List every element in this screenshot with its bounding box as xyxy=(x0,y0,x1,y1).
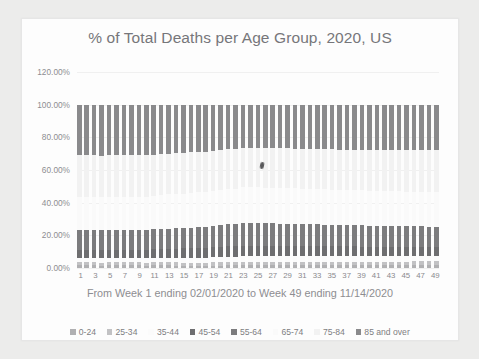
bar-column[interactable] xyxy=(300,105,305,268)
bar-column[interactable] xyxy=(151,105,156,268)
bar-column[interactable] xyxy=(99,105,104,268)
bar-column[interactable] xyxy=(352,105,357,268)
bar-column[interactable] xyxy=(84,105,89,268)
bar-segment xyxy=(352,105,357,150)
legend-label: 0-24 xyxy=(79,327,96,337)
bar-segment xyxy=(144,230,149,250)
bar-column[interactable] xyxy=(174,105,179,268)
bar-segment xyxy=(300,189,305,224)
bar-segment xyxy=(107,155,112,196)
legend-item[interactable]: 25-34 xyxy=(107,327,137,337)
legend-label: 85 and over xyxy=(364,327,409,337)
bar-column[interactable] xyxy=(77,105,82,268)
bar-column[interactable] xyxy=(159,105,164,268)
legend-item[interactable]: 0-24 xyxy=(70,327,96,337)
bar-column[interactable] xyxy=(382,105,387,268)
bar-column[interactable] xyxy=(211,105,216,268)
bar-column[interactable] xyxy=(203,105,208,268)
bar-column[interactable] xyxy=(337,105,342,268)
bar-column[interactable] xyxy=(181,105,186,268)
bar-column[interactable] xyxy=(248,105,253,268)
bar-column[interactable] xyxy=(308,105,313,268)
chart-legend: 0-2425-3435-4445-5455-6465-7475-8485 and… xyxy=(22,327,458,337)
bar-column[interactable] xyxy=(367,105,372,268)
bar-segment xyxy=(107,197,112,230)
x-axis-tick-label: 43 xyxy=(387,271,396,280)
bar-column[interactable] xyxy=(330,105,335,268)
bar-segment xyxy=(389,105,394,150)
bar-segment xyxy=(114,197,119,230)
bar-column[interactable] xyxy=(233,105,238,268)
bar-column[interactable] xyxy=(389,105,394,268)
bar-segment xyxy=(270,246,275,257)
bar-segment xyxy=(159,229,164,249)
bar-column[interactable] xyxy=(270,105,275,268)
bar-column[interactable] xyxy=(189,105,194,268)
bar-segment xyxy=(263,246,268,257)
bar-column[interactable] xyxy=(419,105,424,268)
bar-column[interactable] xyxy=(434,105,439,268)
bar-column[interactable] xyxy=(226,105,231,268)
bar-segment xyxy=(285,224,290,246)
bar-column[interactable] xyxy=(285,105,290,268)
bar-segment xyxy=(427,105,432,150)
bar-column[interactable] xyxy=(360,105,365,268)
legend-item[interactable]: 85 and over xyxy=(356,327,410,337)
bar-column[interactable] xyxy=(144,105,149,268)
bar-column[interactable] xyxy=(196,105,201,268)
bar-segment xyxy=(129,250,134,259)
bar-column[interactable] xyxy=(427,105,432,268)
legend-item[interactable]: 65-74 xyxy=(273,327,303,337)
bar-column[interactable] xyxy=(92,105,97,268)
bar-segment xyxy=(114,250,119,259)
bar-column[interactable] xyxy=(256,105,261,268)
bar-column[interactable] xyxy=(345,105,350,268)
bar-segment xyxy=(315,265,320,268)
bar-segment xyxy=(404,105,409,150)
bar-segment xyxy=(174,153,179,194)
bar-column[interactable] xyxy=(293,105,298,268)
bar-column[interactable] xyxy=(315,105,320,268)
bar-column[interactable] xyxy=(375,105,380,268)
y-axis-tick-label: 120.00% xyxy=(37,67,77,77)
bar-segment xyxy=(293,105,298,149)
legend-item[interactable]: 75-84 xyxy=(314,327,344,337)
bar-column[interactable] xyxy=(122,105,127,268)
legend-label: 55-64 xyxy=(240,327,262,337)
legend-label: 65-74 xyxy=(281,327,303,337)
bar-column[interactable] xyxy=(129,105,134,268)
bar-column[interactable] xyxy=(166,105,171,268)
bar-column[interactable] xyxy=(397,105,402,268)
bar-segment xyxy=(159,195,164,229)
bar-column[interactable] xyxy=(404,105,409,268)
legend-swatch-icon xyxy=(273,329,279,335)
bar-segment xyxy=(159,105,164,154)
bar-segment xyxy=(166,154,171,195)
bar-column[interactable] xyxy=(137,105,142,268)
x-axis-tick-labels: 1357911131517192123252729313335373941434… xyxy=(77,271,439,283)
bar-column[interactable] xyxy=(218,105,223,268)
x-axis-tick-label: 3 xyxy=(93,271,97,280)
bar-segment xyxy=(300,149,305,189)
bar-column[interactable] xyxy=(322,105,327,268)
bar-segment xyxy=(278,224,283,246)
bar-column[interactable] xyxy=(278,105,283,268)
legend-item[interactable]: 35-44 xyxy=(148,327,178,337)
bar-segment xyxy=(137,155,142,196)
bar-segment xyxy=(345,190,350,225)
bar-column[interactable] xyxy=(412,105,417,268)
bar-column[interactable] xyxy=(263,105,268,268)
legend-item[interactable]: 45-54 xyxy=(190,327,220,337)
bar-segment xyxy=(285,246,290,257)
bar-segment xyxy=(256,105,261,148)
bar-column[interactable] xyxy=(107,105,112,268)
bar-segment xyxy=(419,226,424,247)
legend-item[interactable]: 55-64 xyxy=(231,327,261,337)
bar-segment xyxy=(92,230,97,250)
bar-segment xyxy=(397,247,402,256)
bar-segment xyxy=(367,247,372,257)
bar-segment xyxy=(427,192,432,226)
bar-segment xyxy=(189,105,194,153)
bar-column[interactable] xyxy=(241,105,246,268)
bar-column[interactable] xyxy=(114,105,119,268)
